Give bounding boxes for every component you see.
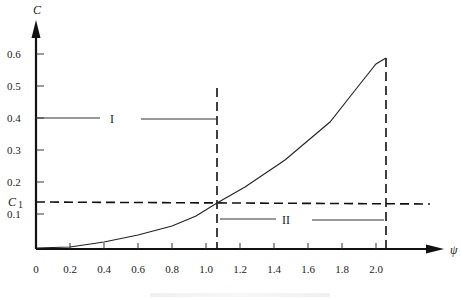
region-1-label: I <box>110 112 114 126</box>
svg-text:0.2: 0.2 <box>7 176 21 188</box>
y-axis-arrow-icon <box>32 20 41 38</box>
svg-text:0.4: 0.4 <box>7 112 21 124</box>
svg-text:0: 0 <box>33 263 39 275</box>
svg-text:0.2: 0.2 <box>63 263 77 275</box>
svg-text:0.5: 0.5 <box>7 80 21 92</box>
svg-text:1.4: 1.4 <box>267 263 281 275</box>
svg-text:1.2: 1.2 <box>233 263 247 275</box>
svg-text:1.0: 1.0 <box>199 263 213 275</box>
svg-text:2.0: 2.0 <box>369 263 383 275</box>
y-ticks <box>36 54 44 214</box>
svg-text:0.8: 0.8 <box>165 263 179 275</box>
svg-text:0.4: 0.4 <box>97 263 111 275</box>
svg-text:0.6: 0.6 <box>131 263 145 275</box>
svg-text:1.6: 1.6 <box>301 263 315 275</box>
c1-dashed-line <box>36 202 430 204</box>
region-2-label: II <box>282 213 290 227</box>
x-axis-label: ψ <box>450 243 458 257</box>
c1-label: C <box>8 195 17 209</box>
y-axis-label: C <box>33 3 42 17</box>
svg-text:0.3: 0.3 <box>7 144 21 156</box>
x-tick-labels: 0 0.2 0.4 0.6 0.8 1.0 1.2 1.4 1.6 1.8 2.… <box>33 263 383 275</box>
x-axis-arrow-icon <box>426 245 444 254</box>
chart-canvas: C ψ 0.6 0.5 0.4 0.3 0.2 0.1 C 1 0 0.2 0.… <box>0 0 461 299</box>
c1-subscript: 1 <box>18 199 23 210</box>
svg-text:1.8: 1.8 <box>335 263 349 275</box>
y-tick-labels: 0.6 0.5 0.4 0.3 0.2 0.1 C 1 <box>7 48 23 220</box>
caption-cutoff <box>150 293 330 297</box>
svg-text:0.6: 0.6 <box>7 48 21 60</box>
